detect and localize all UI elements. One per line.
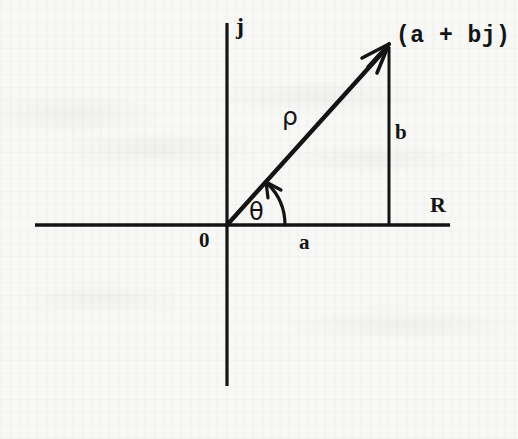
complex-number-label: (a + bj) <box>396 25 510 48</box>
imaginary-axis-label: j <box>236 14 244 38</box>
imaginary-component-label: b <box>395 122 407 143</box>
origin-label: 0 <box>199 230 210 251</box>
magnitude-rho-label: ρ <box>282 104 298 129</box>
real-axis-label: R <box>430 194 446 216</box>
argand-diagram-figure: j R 0 a b ρ θ (a + bj) <box>0 0 518 439</box>
real-component-label: a <box>299 232 310 253</box>
angle-theta-label: θ <box>249 200 264 224</box>
